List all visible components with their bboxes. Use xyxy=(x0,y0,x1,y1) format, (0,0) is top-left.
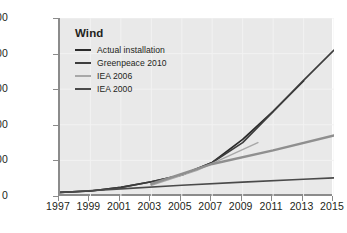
legend-line-swatch-icon xyxy=(75,49,91,51)
legend-item-label: Greenpeace 2010 xyxy=(97,58,167,68)
x-tick-mark xyxy=(149,196,150,201)
y-tick-label: 300 xyxy=(0,82,8,94)
x-tick-mark xyxy=(58,196,59,201)
legend-item: Actual installation xyxy=(75,44,167,56)
y-tick-mark xyxy=(53,18,58,19)
legend-line-swatch-icon xyxy=(75,75,91,77)
legend-item: IEA 2000 xyxy=(75,83,167,95)
chart-legend: Wind Actual installationGreenpeace 2010I… xyxy=(75,27,167,96)
y-tick-mark xyxy=(53,160,58,161)
wind-capacity-line-chart: Installed capacity in GW Wind Actual ins… xyxy=(0,0,347,233)
x-tick-mark xyxy=(210,196,211,201)
y-tick-label: 200 xyxy=(0,118,8,130)
x-tick-label: 2015 xyxy=(312,200,347,212)
y-tick-label: 500 xyxy=(0,11,8,23)
legend-item-label: Actual installation xyxy=(97,45,165,55)
x-tick-mark xyxy=(180,196,181,201)
legend-line-swatch-icon xyxy=(75,88,91,90)
legend-title: Wind xyxy=(75,27,167,39)
legend-item: IEA 2006 xyxy=(75,70,167,82)
legend-item-label: IEA 2000 xyxy=(97,84,132,94)
x-tick-mark xyxy=(332,196,333,201)
x-tick-mark xyxy=(241,196,242,201)
y-tick-mark xyxy=(53,89,58,90)
y-tick-mark xyxy=(53,54,58,55)
x-tick-mark xyxy=(119,196,120,201)
y-tick-mark xyxy=(53,125,58,126)
y-tick-label: 0 xyxy=(0,189,8,201)
legend-item-label: IEA 2006 xyxy=(97,71,132,81)
x-tick-mark xyxy=(302,196,303,201)
legend-line-swatch-icon xyxy=(75,62,91,64)
legend-item: Greenpeace 2010 xyxy=(75,57,167,69)
x-tick-mark xyxy=(271,196,272,201)
y-tick-label: 400 xyxy=(0,47,8,59)
x-tick-mark xyxy=(88,196,89,201)
y-tick-label: 100 xyxy=(0,153,8,165)
